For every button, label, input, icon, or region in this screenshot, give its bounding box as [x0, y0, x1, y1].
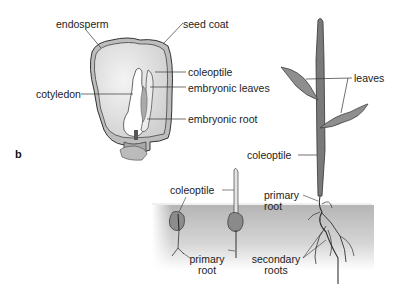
label-secondary-roots: secondary roots	[250, 254, 302, 276]
label-coleoptile-stage1: coleoptile	[170, 185, 214, 196]
diagram-canvas: b endosperm seed coat coleoptile cotyled…	[0, 0, 403, 299]
label-embryonic-leaves: embryonic leaves	[188, 83, 270, 94]
label-coleoptile-seed: coleoptile	[188, 67, 232, 78]
label-leaves: leaves	[354, 73, 384, 84]
label-cotyledon: cotyledon	[36, 89, 81, 100]
label-seed-coat: seed coat	[183, 19, 229, 30]
label-primary-root-stage3: primary root	[264, 190, 299, 212]
label-secondary-roots-line2: roots	[250, 265, 302, 276]
label-primary-root-stage1: primary root	[187, 254, 227, 276]
label-endosperm: endosperm	[56, 19, 109, 30]
label-primary-root-line2: root	[187, 265, 227, 276]
label-coleoptile-stage3: coleoptile	[247, 150, 291, 161]
label-primary-root3-line2: root	[264, 201, 299, 212]
panel-letter: b	[15, 148, 22, 160]
seed-cross-section	[81, 23, 186, 154]
label-embryonic-root: embryonic root	[188, 114, 257, 125]
